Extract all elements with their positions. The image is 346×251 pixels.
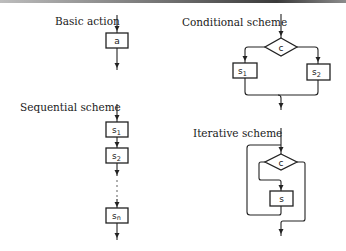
arrowhead-icon bbox=[316, 57, 321, 62]
arrow-out-icon bbox=[278, 95, 281, 110]
arrowhead-icon bbox=[279, 229, 284, 234]
ellipsis-dots bbox=[116, 180, 117, 196]
arrowhead-icon bbox=[279, 31, 284, 36]
arrowhead-icon bbox=[115, 142, 120, 147]
arrowhead-icon bbox=[279, 103, 284, 108]
flowchart-schemes-diagram: Basic action a Sequential scheme s1 s2 s… bbox=[0, 0, 346, 251]
arrowhead-icon bbox=[115, 202, 120, 207]
arrowhead-icon bbox=[115, 170, 120, 175]
sequential-scheme-title: Sequential scheme bbox=[20, 101, 121, 113]
sequential-scheme-group: Sequential scheme s1 s2 sn bbox=[20, 101, 128, 240]
loop-body-label: s bbox=[279, 194, 284, 204]
conditional-scheme-group: Conditional scheme c s1 s2 bbox=[182, 14, 330, 110]
arrowhead-icon bbox=[115, 26, 120, 31]
loop-condition-label: c bbox=[279, 158, 284, 168]
false-branch-line bbox=[245, 47, 265, 63]
true-branch-line bbox=[297, 47, 318, 64]
action-box-label: a bbox=[114, 36, 120, 46]
arrowhead-icon bbox=[115, 115, 120, 120]
basic-action-title: Basic action bbox=[55, 15, 120, 27]
conditional-scheme-title: Conditional scheme bbox=[182, 16, 287, 28]
arrowhead-icon bbox=[279, 185, 284, 190]
arrowhead-icon bbox=[279, 147, 284, 152]
basic-action-group: Basic action a bbox=[55, 15, 128, 70]
arrowhead-icon bbox=[243, 56, 248, 61]
iterative-scheme-group: Iterative scheme c s bbox=[193, 127, 305, 236]
condition-label: c bbox=[279, 43, 284, 53]
iterative-scheme-title: Iterative scheme bbox=[193, 127, 282, 139]
arrowhead-icon bbox=[115, 63, 120, 68]
arrowhead-icon bbox=[115, 233, 120, 238]
